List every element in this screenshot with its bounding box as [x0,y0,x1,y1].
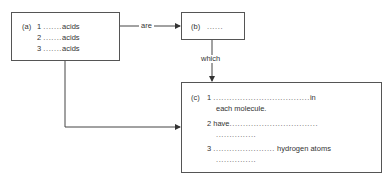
node-b-tag: (b) [191,23,200,31]
node-a: (a) 1 .......acids 2 .......acids 3 ....… [11,12,120,61]
node-c-item-2-line2: ............... [216,131,256,139]
node-c-item-2: 2 have................................. [207,120,318,128]
edge-label-are: are [139,22,154,30]
node-a-item-3: 3 .......acids [37,45,80,53]
node-c-item-1-line2: each molecule. [216,105,266,113]
node-b-blank: ...... [207,23,223,31]
node-c-tag: (c) [191,94,200,102]
node-a-tag: (a) [22,23,31,31]
node-a-item-2: 2 .......acids [37,34,80,42]
node-c-item-1: 1 ....................................in [207,94,316,102]
edge-label-which: which [199,55,222,63]
node-c-item-3-line2: ............... [216,156,256,164]
node-b: (b) ...... [181,12,245,40]
node-c-item-3: 3 ....................... hydrogen atoms [207,145,331,153]
node-c: (c) 1 ..................................… [181,82,382,173]
node-a-item-1: 1 .......acids [37,23,80,31]
